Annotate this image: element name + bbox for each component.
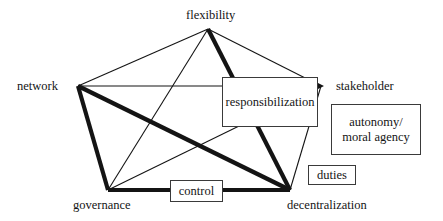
node-label-flexibility: flexibility [186, 9, 235, 22]
diagram-canvas: responsibilization autonomy/ moral agenc… [0, 0, 443, 221]
box-duties[interactable]: duties [308, 165, 356, 185]
edge-flexibility-network [78, 29, 208, 86]
box-control-label: control [179, 184, 214, 198]
box-autonomy-line1: autonomy/ [349, 115, 402, 130]
box-responsibilization[interactable]: responsibilization [222, 77, 318, 127]
edge-network-governance [78, 86, 108, 190]
node-label-stakeholder: stakeholder [336, 80, 394, 93]
box-autonomy-line2: moral agency [342, 130, 410, 145]
box-control[interactable]: control [170, 180, 223, 202]
node-label-decentralization: decentralization [287, 199, 367, 212]
box-duties-label: duties [317, 168, 347, 182]
node-label-network: network [17, 80, 58, 93]
box-autonomy-moral-agency[interactable]: autonomy/ moral agency [331, 104, 421, 155]
node-label-governance: governance [73, 199, 131, 212]
box-responsibilization-label: responsibilization [226, 95, 315, 109]
